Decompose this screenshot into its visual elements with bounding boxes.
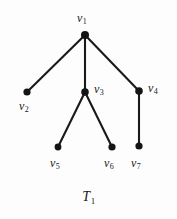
graph-edge-v1-v2 [27, 35, 85, 92]
graph-node-v1 [81, 31, 89, 39]
vertex-label-subscript-v1: 1 [83, 17, 87, 26]
graph-node-v2 [23, 88, 30, 95]
caption-subscript: 1 [91, 196, 96, 206]
vertex-label-v3: v3 [94, 83, 103, 95]
vertex-label-text-v4: v [148, 81, 153, 95]
graph-node-v7 [135, 142, 142, 149]
vertex-label-text-v7: v [131, 156, 136, 170]
graph-node-v5 [55, 144, 62, 151]
vertex-label-subscript-v5: 5 [56, 162, 60, 171]
vertex-label-v4: v4 [148, 82, 157, 94]
vertex-label-text-v2: v [19, 99, 24, 113]
vertex-label-v7: v7 [131, 157, 140, 169]
vertex-label-v6: v6 [104, 157, 113, 169]
graph-edge-v3-v5 [58, 92, 85, 147]
vertex-label-subscript-v3: 3 [100, 88, 104, 97]
vertex-label-v1: v1 [77, 12, 86, 24]
vertex-label-subscript-v6: 6 [110, 162, 114, 171]
graph-node-v3 [81, 88, 89, 96]
vertex-label-subscript-v7: 7 [137, 162, 141, 171]
vertex-label-v5: v5 [50, 157, 59, 169]
graph-node-v6 [108, 143, 115, 150]
vertex-label-v2: v2 [19, 100, 28, 112]
vertex-label-text-v3: v [94, 82, 99, 96]
vertex-label-text-v6: v [104, 156, 109, 170]
caption-text: T [82, 189, 90, 204]
nodes-layer [23, 31, 142, 151]
vertex-label-subscript-v2: 2 [25, 105, 29, 114]
figure-caption: T1 [0, 190, 177, 204]
graph-edge-v3-v6 [85, 92, 112, 147]
graph-node-v4 [135, 87, 143, 95]
vertex-label-text-v5: v [50, 156, 55, 170]
tree-diagram-figure: v1v2v3v4v5v6v7 T1 [0, 0, 177, 219]
vertex-label-subscript-v4: 4 [154, 87, 158, 96]
vertex-label-text-v1: v [77, 11, 82, 25]
